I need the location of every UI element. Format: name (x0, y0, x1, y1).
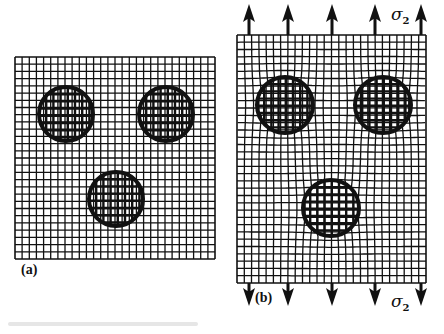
panel-label-b: (b) (255, 290, 272, 306)
stress-arrow-down-2 (282, 283, 294, 306)
stress-arrow-up-2 (282, 4, 294, 35)
figure-caption (8, 322, 198, 326)
stress-arrow-down-4 (369, 283, 381, 306)
stress-arrow-down-1 (243, 283, 255, 306)
stress-label-top: σ2 (391, 4, 410, 26)
grid-panel-a (15, 57, 215, 259)
panel-label-a: (a) (21, 262, 37, 278)
stress-arrow-up-4 (369, 4, 381, 35)
stress-arrow-down-3 (326, 283, 338, 306)
stress-arrow-up-5 (415, 4, 427, 35)
stress-arrow-up-3 (326, 4, 338, 35)
stress-label-bottom: σ2 (391, 291, 410, 313)
stress-arrow-up-1 (243, 4, 255, 35)
grid-panel-b (237, 35, 426, 283)
figure-canvas (0, 0, 444, 334)
stress-arrow-down-5 (415, 283, 427, 306)
